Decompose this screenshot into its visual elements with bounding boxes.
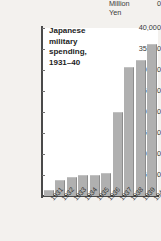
bar-1939 <box>136 60 146 196</box>
bar-1938 <box>124 67 134 196</box>
bar-1940 <box>147 44 157 196</box>
chart-figure: 40,00035,00030,00025,00020,00015,00010,0… <box>0 0 161 241</box>
bar-1937 <box>113 112 123 196</box>
y-axis-unit-label: Million Yen <box>109 0 149 17</box>
chart-title-line-4: 1931–40 <box>49 58 111 69</box>
chart-title-line-3: spending, <box>49 47 111 58</box>
x-axis-label-group: 1931193219331934193519361937193819391940 <box>43 197 161 241</box>
chart-title-line-1: Japanese <box>49 26 111 37</box>
y-axis-zero-label: 0 <box>151 0 161 8</box>
chart-title-line-2: military <box>49 37 111 48</box>
chart-title: Japanese military spending, 1931–40 <box>49 26 111 68</box>
y-axis-unit-line2: Yen <box>109 9 149 18</box>
